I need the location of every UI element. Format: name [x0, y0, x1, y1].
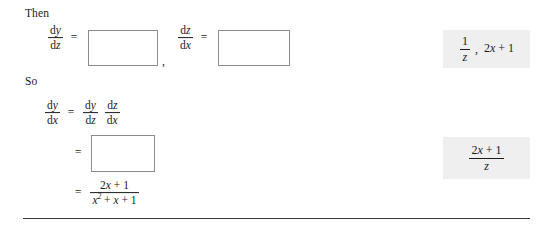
equals-sign: =: [64, 107, 79, 119]
equals-sign: =: [75, 186, 82, 198]
variable-z: z: [56, 40, 60, 52]
answer-panel-then: 1 z , 2x + 1: [443, 30, 530, 68]
answer-comma: ,: [474, 43, 481, 55]
then-equation-row: dy dz =: [47, 24, 81, 52]
answer-then-tail: 2x + 1: [484, 41, 514, 55]
exponent-two: 2: [97, 193, 101, 202]
answer-input-dz-dx[interactable]: [218, 30, 290, 66]
step-equals-sign: =: [75, 147, 82, 159]
chain-rule-equation: dy dx = dy dz dz dx: [44, 99, 122, 127]
worked-example-page: Then dy dz = , dz dx = 1 z , 2x + 1 So: [0, 0, 551, 230]
denominator-z: z: [463, 50, 468, 64]
final-denominator: x2 + x + 1: [90, 194, 138, 207]
then-separator-comma: ,: [161, 56, 168, 68]
numerator-one: 1: [462, 34, 468, 48]
answer-input-dy-dz[interactable]: [88, 30, 158, 66]
answer-so-denominator: z: [469, 159, 503, 173]
answer-then-expression: 1 z , 2x + 1: [459, 35, 514, 64]
then-equation-row-2: dz dx =: [177, 24, 211, 52]
variable-x: x: [186, 40, 191, 52]
variable-z: z: [186, 24, 190, 36]
equals-sign: =: [197, 32, 212, 44]
fraction-dy-dx: dy dx: [44, 99, 61, 127]
fraction-dy-dz: dy dz: [47, 24, 64, 52]
fraction-dz-dx: dz dx: [177, 24, 194, 52]
answer-so-expression: 2x + 1 z: [468, 144, 504, 173]
variable-y: y: [56, 24, 61, 36]
section-divider: [23, 218, 530, 219]
fraction-dz-dx-rhs: dz dx: [104, 99, 121, 127]
equals-sign: =: [67, 32, 82, 44]
fraction-one-over-z: 1 z: [459, 35, 471, 64]
so-label: So: [25, 76, 37, 88]
final-result-equation: = 2x + 1 x2 + x + 1: [75, 179, 140, 207]
fraction-2x-plus-1-over-z: 2x + 1 z: [468, 144, 504, 173]
then-label: Then: [25, 8, 49, 20]
answer-so-numerator: 2x + 1: [469, 144, 503, 159]
answer-panel-so: 2x + 1 z: [443, 137, 530, 179]
final-numerator: 2x + 1: [90, 179, 138, 193]
fraction-dy-dz-rhs: dy dz: [82, 99, 99, 127]
answer-input-dy-dx[interactable]: [91, 135, 155, 172]
fraction-final-result: 2x + 1 x2 + x + 1: [89, 179, 139, 207]
